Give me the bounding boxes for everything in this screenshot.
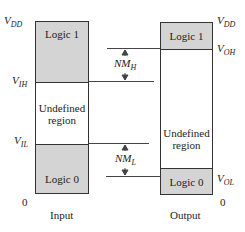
- noise-margin-arrows: [0, 0, 245, 232]
- nm-high-label: NMH: [114, 57, 136, 72]
- nm-low-label: NML: [115, 152, 136, 167]
